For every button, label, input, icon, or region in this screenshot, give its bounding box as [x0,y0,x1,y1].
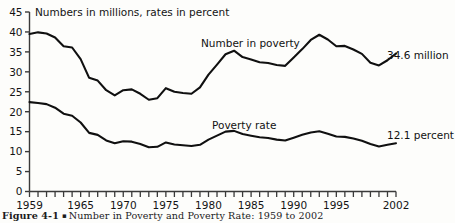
poverty-chart: 051015202530354045 195919651970197519801… [0,0,455,223]
figure-caption-number: Figure 4-1 [2,210,59,221]
y-axis-tick-label: 30 [9,66,22,78]
y-axis-tick-label: 5 [16,165,23,177]
x-axis-tick-label: 1965 [67,199,94,211]
y-axis-tick-labels: 051015202530354045 [9,6,22,198]
y-axis-tick-label: 45 [9,6,22,18]
x-axis-tick-labels: 195919651970197519801985199019952002 [16,199,409,211]
x-axis-tick-marks [30,192,397,198]
y-axis-tick-label: 20 [9,106,22,118]
x-axis-tick-label: 2002 [383,199,410,211]
y-axis-tick-label: 40 [9,26,22,38]
x-axis-tick-label: 1980 [195,199,222,211]
x-axis-tick-label: 1995 [323,199,350,211]
chart-subtitle: Numbers in millions, rates in percent [35,6,229,18]
x-axis-tick-label: 1959 [16,199,43,211]
x-axis-tick-label: 1970 [110,199,137,211]
figure-caption-text: Number in Poverty and Poverty Rate: 1959… [69,210,324,221]
y-axis-tick-label: 10 [9,145,22,157]
x-axis-tick-label: 1975 [153,199,180,211]
figure-caption-marker-icon: ▪ [59,212,69,220]
y-axis-tick-label: 25 [9,86,22,98]
y-axis-tick-label: 0 [16,185,23,197]
number-in-poverty-endpoint-label: 34.6 million [387,49,449,61]
y-axis-tick-label: 15 [9,125,22,137]
number-in-poverty-label: Number in poverty [201,37,300,49]
poverty-rate-endpoint-label: 12.1 percent [387,129,454,141]
figure-caption: Figure 4-1▪Number in Poverty and Poverty… [2,210,453,221]
x-axis-tick-label: 1990 [280,199,307,211]
poverty-rate-label: Poverty rate [212,119,276,131]
poverty-figure: 051015202530354045 195919651970197519801… [0,0,455,223]
y-axis-tick-label: 35 [9,46,22,58]
x-axis-tick-label: 1985 [238,199,265,211]
